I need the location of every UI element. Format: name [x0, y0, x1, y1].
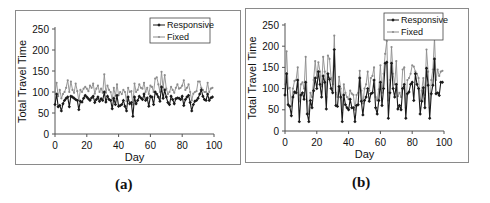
data-point: [60, 97, 62, 99]
data-point: [133, 83, 135, 85]
data-point: [161, 97, 164, 100]
data-point: [192, 93, 194, 95]
data-point: [100, 88, 102, 90]
data-point: [68, 105, 71, 108]
data-point: [104, 100, 107, 103]
legend-label: Responsive: [167, 20, 214, 30]
data-point: [137, 89, 139, 91]
data-point: [418, 112, 421, 115]
data-point: [422, 77, 424, 79]
data-point: [151, 86, 153, 88]
data-point: [119, 91, 121, 93]
x-tick-label: 0: [282, 137, 288, 148]
data-point: [290, 114, 293, 117]
data-point: [205, 91, 207, 93]
y-tick-label: 100: [32, 87, 49, 98]
data-point: [55, 82, 57, 84]
data-point: [73, 92, 75, 94]
data-point: [62, 93, 64, 95]
data-point: [60, 109, 63, 112]
y-axis-title: Total Travel Time: [16, 40, 28, 123]
data-point: [135, 91, 137, 93]
data-point: [309, 92, 311, 94]
data-point: [108, 89, 110, 91]
data-point: [302, 98, 305, 101]
data-point: [285, 50, 287, 52]
data-point: [131, 115, 134, 118]
data-point: [192, 103, 195, 106]
data-point: [298, 120, 301, 123]
data-point: [145, 91, 147, 93]
data-point: [363, 88, 365, 90]
data-point: [143, 82, 145, 84]
data-point: [408, 77, 410, 79]
data-point: [283, 93, 286, 96]
data-point: [122, 89, 124, 91]
legend-label: Fixed: [401, 27, 423, 37]
data-point: [371, 75, 373, 77]
data-point: [417, 77, 419, 79]
data-point: [403, 83, 406, 86]
data-point: [361, 113, 364, 116]
data-point: [122, 99, 125, 102]
data-point: [364, 95, 367, 98]
data-point: [114, 103, 117, 106]
data-point: [358, 76, 361, 79]
series-responsive: [283, 48, 444, 123]
data-point: [324, 71, 326, 73]
legend-marker: [392, 31, 394, 33]
data-point: [148, 93, 150, 95]
series-line: [285, 36, 442, 114]
data-point: [406, 79, 408, 81]
data-point: [110, 91, 112, 93]
y-axis-title: Total Travel Time: [246, 36, 258, 119]
y-tick-label: 0: [43, 129, 49, 140]
data-point: [164, 74, 166, 76]
data-point: [125, 109, 128, 112]
data-point: [372, 78, 375, 81]
data-point: [124, 91, 126, 93]
data-point: [191, 99, 193, 101]
data-point: [130, 90, 132, 92]
data-point: [186, 87, 188, 89]
data-point: [67, 79, 69, 81]
data-point: [425, 48, 427, 50]
data-point: [344, 92, 346, 94]
data-point: [180, 87, 182, 89]
data-point: [310, 106, 313, 109]
data-point: [165, 95, 168, 98]
data-point: [325, 107, 328, 110]
data-point: [103, 73, 105, 75]
line-chart-b: 050100150200250020406080100DayTotal Trav…: [246, 9, 468, 162]
x-tick-label: 60: [375, 137, 387, 148]
data-point: [113, 87, 115, 89]
legend-marker: [158, 36, 160, 38]
data-point: [121, 93, 123, 95]
y-tick-label: 200: [262, 41, 279, 52]
data-point: [170, 86, 172, 88]
data-point: [53, 103, 56, 106]
data-point: [198, 92, 201, 95]
data-point: [374, 106, 377, 109]
data-point: [301, 81, 303, 83]
data-point: [322, 56, 324, 58]
x-tick-label: 80: [407, 137, 419, 148]
data-point: [173, 102, 176, 105]
data-point: [141, 88, 143, 90]
data-point: [199, 80, 201, 82]
data-point: [54, 91, 56, 93]
data-point: [158, 100, 161, 103]
data-point: [370, 77, 372, 79]
data-point: [300, 83, 302, 85]
data-point: [333, 48, 336, 51]
data-point: [86, 88, 88, 90]
data-point: [156, 76, 158, 78]
data-point: [367, 71, 369, 73]
data-point: [147, 105, 150, 108]
chart-panel-a: 050100150200250020406080100DayTotal Trav…: [15, 10, 241, 165]
data-point: [65, 87, 67, 89]
x-tick-label: 100: [206, 140, 223, 151]
y-tick-label: 50: [268, 104, 280, 115]
line-chart-a: 050100150200250020406080100DayTotal Trav…: [16, 11, 240, 164]
data-point: [84, 86, 86, 88]
